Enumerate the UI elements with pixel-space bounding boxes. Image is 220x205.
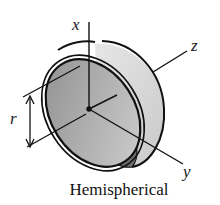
z-axis-label: z <box>190 36 198 55</box>
origin-point <box>87 107 91 111</box>
radius-label: r <box>10 109 17 128</box>
caption-text: Hemispherical <box>69 180 168 199</box>
x-axis-label: x <box>71 15 80 34</box>
y-axis-label: y <box>181 162 191 181</box>
hemisphere-diagram: x z y r <box>0 0 220 205</box>
z-axis-outer <box>153 51 187 72</box>
figure-caption: Hemispherical <box>0 180 220 200</box>
